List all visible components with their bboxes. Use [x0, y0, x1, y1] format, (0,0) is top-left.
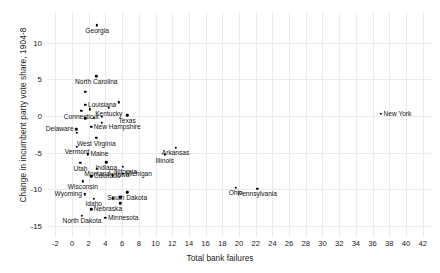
gridline-vertical — [322, 12, 323, 237]
data-point — [76, 132, 78, 134]
y-axis-tick-label: -10 — [18, 185, 42, 194]
gridline-vertical — [222, 12, 223, 237]
x-axis-tick-label: 4 — [103, 239, 107, 248]
gridline-horizontal — [47, 226, 431, 227]
gridline-vertical — [306, 12, 307, 237]
data-point — [75, 128, 77, 130]
x-axis-tick-label: 26 — [285, 239, 293, 248]
x-axis-tick-label: 38 — [385, 239, 393, 248]
gridline-vertical — [156, 12, 157, 237]
gridline-vertical — [172, 12, 173, 237]
data-point-label: Minnesota — [108, 215, 138, 222]
gridline-vertical — [239, 12, 240, 237]
gridline-vertical — [406, 12, 407, 237]
data-point — [84, 104, 86, 106]
x-axis-tick-label: 16 — [201, 239, 209, 248]
x-axis-tick-label: 30 — [318, 239, 326, 248]
x-axis-tick-label: -2 — [52, 239, 59, 248]
data-point — [380, 113, 382, 115]
y-axis-tick-label: 5 — [18, 75, 42, 84]
x-axis-tick-label: 42 — [418, 239, 426, 248]
data-point-label: Nebraska — [94, 206, 122, 213]
gridline-vertical — [256, 12, 257, 237]
x-axis-tick-label: 22 — [251, 239, 259, 248]
gridline-vertical — [356, 12, 357, 237]
x-axis-tick-label: 36 — [368, 239, 376, 248]
data-point-label: Wyoming — [55, 191, 82, 198]
x-axis-tick-label: 10 — [151, 239, 159, 248]
data-point-label: Vermont — [65, 149, 90, 156]
data-point-label: Delaware — [46, 126, 74, 133]
x-axis-tick-label: 0 — [70, 239, 74, 248]
x-axis-title: Total bank failures — [0, 253, 440, 263]
x-axis-tick-label: 40 — [402, 239, 410, 248]
y-axis-tick-label: -15 — [18, 222, 42, 231]
data-point-label: Georgia — [85, 28, 108, 35]
gridline-vertical — [289, 12, 290, 237]
y-axis-tick-label: -5 — [18, 148, 42, 157]
x-axis-tick-label: 12 — [168, 239, 176, 248]
data-point-label: Maine — [91, 151, 109, 158]
gridline-vertical — [272, 12, 273, 237]
data-point-label: North Carolina — [75, 79, 118, 86]
data-point-label: Illinois — [156, 158, 174, 165]
y-axis-tick-label: 10 — [18, 38, 42, 47]
x-axis-tick-label: 24 — [268, 239, 276, 248]
x-axis-tick-label: 34 — [352, 239, 360, 248]
gridline-vertical — [189, 12, 190, 237]
data-point-label: New York — [384, 111, 412, 118]
scatter-plot-figure: Change in incumbent party vote share, 19… — [0, 0, 440, 273]
data-point-label: West Virginia — [77, 141, 116, 148]
gridline-vertical — [389, 12, 390, 237]
x-axis-tick-label: 14 — [185, 239, 193, 248]
y-axis-tick-label: 0 — [18, 112, 42, 121]
x-axis-tick-label: 8 — [137, 239, 141, 248]
gridline-vertical — [206, 12, 207, 237]
gridline-horizontal — [47, 43, 431, 44]
gridline-vertical — [423, 12, 424, 237]
x-axis-tick-label: 20 — [235, 239, 243, 248]
gridline-vertical — [373, 12, 374, 237]
data-point-label: Louisiana — [88, 102, 116, 109]
x-axis-tick-label: 6 — [120, 239, 124, 248]
data-point — [84, 91, 86, 93]
x-axis-tick-label: 32 — [335, 239, 343, 248]
data-point — [90, 208, 92, 210]
data-point-label: Iowa — [116, 172, 130, 179]
gridline-vertical — [339, 12, 340, 237]
data-point-label: Pennsylvania — [238, 191, 277, 198]
data-point — [90, 126, 92, 128]
data-point — [118, 101, 120, 103]
data-point — [83, 193, 85, 195]
x-axis-tick-label: 28 — [302, 239, 310, 248]
data-point-label: North Dakota — [63, 218, 102, 225]
data-point-label: New Hampshire — [94, 124, 141, 131]
x-axis-tick-label: 18 — [218, 239, 226, 248]
plot-area: GeorgiaNorth CarolinaLouisianaKentuckyCo… — [47, 12, 431, 237]
x-axis-tick-label: 2 — [87, 239, 91, 248]
